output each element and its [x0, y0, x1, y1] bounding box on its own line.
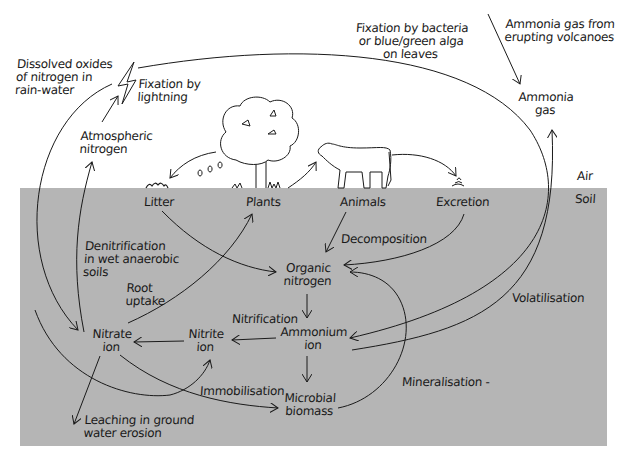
label-animals: Animals	[340, 196, 387, 209]
label-dissolved-oxides: Dissolved oxides of nitrogen in rain-wat…	[15, 58, 113, 97]
arrow-mineralisation	[338, 272, 406, 408]
arrow-atmos-to-lightning	[102, 96, 118, 122]
label-immobilisation: Immobilisation	[200, 385, 285, 398]
arrow-ammonium-to-nitrite	[232, 338, 276, 340]
label-atmospheric-nitrogen: Atmospheric nitrogen	[79, 130, 153, 156]
label-soil: Soil	[575, 193, 596, 206]
label-air: Air	[577, 170, 593, 183]
label-mineralisation: Mineralisation -	[402, 376, 490, 389]
lightning-icon	[118, 62, 136, 104]
label-volatilisation: Volatilisation	[512, 292, 585, 305]
label-organic-nitrogen: Organic nitrogen	[283, 262, 333, 288]
node-nitrite-ion: Nitrite ion	[187, 328, 224, 354]
label-fixation-bacteria: Fixation by bacteria or blue/green alga …	[354, 22, 469, 61]
arrow-cow-to-excretion	[392, 154, 456, 176]
label-decomposition: Decomposition	[341, 233, 428, 246]
cow-icon	[318, 143, 391, 188]
arrow-rain-water	[37, 84, 112, 330]
label-fixation-lightning: Fixation by lightning	[137, 78, 201, 104]
node-nitrate-ion: Nitrate ion	[91, 328, 132, 354]
tree-icon	[198, 97, 299, 188]
label-leaching: Leaching in ground water erosion	[83, 414, 194, 440]
arrow-plants-to-cow	[288, 162, 316, 188]
arrow-tree-to-litter	[170, 152, 216, 178]
arrow-nitrate-to-microbial	[120, 355, 278, 408]
label-litter: Litter	[144, 196, 175, 209]
label-denitrification: Denitrification in wet anaerobic soils	[83, 240, 181, 279]
node-microbial-biomass: Microbial biomass	[283, 392, 336, 418]
nitrogen-cycle-diagram: Dissolved oxides of nitrogen in rain-wat…	[0, 0, 623, 458]
label-excretion: Excretion	[436, 196, 490, 209]
label-plants: Plants	[246, 196, 282, 209]
arrow-nitrite-to-nitrate	[134, 341, 184, 342]
excretion-pile-icon	[452, 178, 464, 186]
node-ammonium-ion: Ammonium ion	[279, 326, 348, 352]
label-root-uptake: Root uptake	[125, 282, 166, 308]
label-ammonia-gas: Ammonia gas	[517, 91, 574, 117]
label-ammonia-volcanoes: Ammonia gas from erupting volcanoes	[504, 18, 615, 44]
litter-pile-icon	[146, 183, 168, 188]
